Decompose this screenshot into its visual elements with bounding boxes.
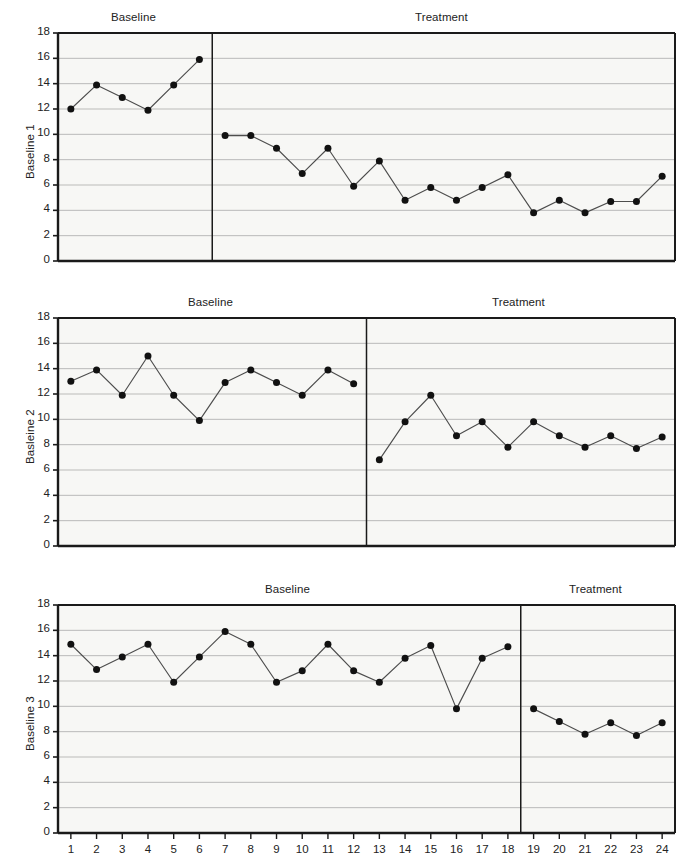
x-tick-label: 11: [318, 843, 338, 855]
phase-title-treatment: Treatment: [0, 11, 678, 23]
x-tick-label: 13: [369, 843, 389, 855]
y-tick-label: 2: [28, 800, 50, 812]
y-tick-label: 6: [28, 177, 50, 189]
x-tick-label: 1: [61, 843, 81, 855]
y-tick-label: 12: [28, 101, 50, 113]
y-tick-label: 0: [28, 538, 50, 550]
y-tick-label: 14: [28, 648, 50, 660]
x-tick-label: 2: [87, 843, 107, 855]
y-tick-label: 16: [28, 50, 50, 62]
y-tick-label: 8: [28, 152, 50, 164]
y-tick-label: 8: [28, 437, 50, 449]
y-tick-label: 4: [28, 774, 50, 786]
x-tick-label: 22: [601, 843, 621, 855]
x-tick-label: 18: [498, 843, 518, 855]
y-tick-label: 8: [28, 724, 50, 736]
y-tick-label: 10: [28, 126, 50, 138]
y-tick-label: 14: [28, 361, 50, 373]
x-tick-label: 5: [164, 843, 184, 855]
y-tick-label: 14: [28, 76, 50, 88]
x-tick-label: 7: [215, 843, 235, 855]
x-tick-label: 16: [446, 843, 466, 855]
y-tick-label: 12: [28, 386, 50, 398]
x-axis-ticks: [0, 0, 678, 857]
x-tick-label: 19: [524, 843, 544, 855]
plot-area-3: [0, 0, 678, 857]
y-tick-label: 6: [28, 462, 50, 474]
x-tick-label: 12: [344, 843, 364, 855]
y-tick-label: 18: [28, 310, 50, 322]
phase-title-treatment: Treatment: [0, 296, 678, 308]
x-tick-label: 15: [421, 843, 441, 855]
y-tick-label: 16: [28, 622, 50, 634]
x-tick-label: 8: [241, 843, 261, 855]
y-tick-label: 18: [28, 597, 50, 609]
y-tick-label: 16: [28, 335, 50, 347]
x-tick-label: 24: [652, 843, 672, 855]
plot-area-1: [0, 0, 678, 857]
y-tick-label: 4: [28, 487, 50, 499]
x-tick-label: 3: [112, 843, 132, 855]
phase-title-treatment: Treatment: [0, 583, 678, 595]
y-tick-label: 10: [28, 698, 50, 710]
y-tick-label: 2: [28, 513, 50, 525]
x-axis-labels: 123456789101112131415161718192021222324: [0, 843, 678, 857]
x-tick-label: 17: [472, 843, 492, 855]
x-tick-label: 23: [626, 843, 646, 855]
x-tick-label: 10: [292, 843, 312, 855]
y-tick-label: 6: [28, 749, 50, 761]
y-tick-label: 10: [28, 411, 50, 423]
multiple-baseline-figure: BaselineTreatmentBaseline 10246810121416…: [0, 0, 678, 857]
plot-area-2: [0, 0, 678, 857]
x-tick-label: 21: [575, 843, 595, 855]
y-tick-label: 0: [28, 825, 50, 837]
x-tick-label: 9: [267, 843, 287, 855]
y-tick-label: 18: [28, 25, 50, 37]
x-tick-label: 4: [138, 843, 158, 855]
y-tick-label: 0: [28, 253, 50, 265]
y-tick-label: 2: [28, 228, 50, 240]
y-tick-label: 12: [28, 673, 50, 685]
x-tick-label: 14: [395, 843, 415, 855]
x-tick-label: 20: [549, 843, 569, 855]
x-tick-label: 6: [189, 843, 209, 855]
y-tick-label: 4: [28, 202, 50, 214]
